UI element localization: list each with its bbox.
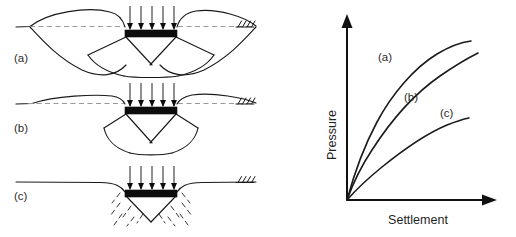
y-axis-label: Pressure: [325, 110, 339, 160]
load-arrows-c: [127, 166, 177, 190]
radial-fan-left-a: [88, 37, 126, 55]
slip-surface-base-b: [130, 153, 172, 155]
slip-surface-left-inner-a: [88, 55, 124, 76]
punching-wedge-right-c: [151, 197, 175, 222]
curve-label-c: (c): [440, 107, 454, 119]
diagram-label-b: (b): [14, 122, 28, 134]
figure-canvas: (a): [0, 0, 516, 237]
curve-c: [347, 118, 469, 200]
slip-surface-right-b: [172, 128, 198, 153]
footing-a: [125, 30, 177, 37]
curve-label-a: (a): [378, 51, 392, 63]
radial-fan-right-a: [176, 37, 214, 55]
diagram-a: (a): [14, 6, 256, 78]
diagram-label-c: (c): [14, 190, 28, 202]
diagram-c: (c): [14, 166, 256, 226]
pressure-settlement-chart: (a) (b) (c) Pressure Settlement: [325, 14, 497, 227]
radial-fan-left-b: [104, 114, 126, 128]
punching-wedge-left-c: [127, 197, 151, 222]
curve-a: [347, 41, 471, 200]
footing-c: [125, 190, 177, 197]
slip-surface-left-b: [104, 128, 130, 153]
active-wedge-right-b: [150, 114, 176, 143]
heave-surface-left-b: [16, 95, 125, 104]
footing-b: [125, 107, 177, 114]
ground-symbol-a: [236, 21, 255, 27]
load-arrows-a: [127, 6, 177, 30]
active-wedge-left-b: [126, 114, 152, 143]
heave-surface-right-b: [177, 94, 256, 104]
slip-surface-left-outer-a: [30, 27, 126, 75]
radial-fan-right-b: [176, 114, 198, 128]
x-axis-arrow-icon: [482, 195, 497, 206]
curve-label-b: (b): [404, 91, 418, 103]
ground-surface-left-c: [16, 182, 125, 192]
figure-root: (a): [0, 0, 516, 237]
diagram-label-a: (a): [14, 52, 28, 64]
active-wedge-left-a: [126, 37, 152, 65]
x-axis-label: Settlement: [388, 213, 448, 227]
curve-group: [347, 41, 478, 200]
y-axis-arrow-icon: [342, 14, 353, 28]
punching-hatch-c: [110, 193, 192, 226]
load-arrows-b: [127, 83, 177, 107]
curve-b: [347, 53, 478, 200]
active-wedge-right-a: [150, 37, 176, 65]
heave-surface-left-a: [16, 10, 125, 27]
diagram-b: (b): [14, 83, 256, 155]
slip-surface-base-a: [124, 76, 178, 78]
ground-surface-right-c: [177, 182, 256, 192]
